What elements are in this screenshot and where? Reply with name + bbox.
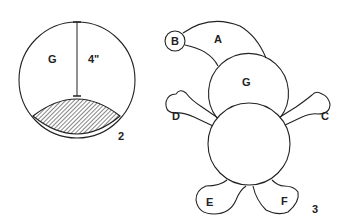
label-dimension: 4" (88, 53, 99, 65)
label-f: F (281, 195, 288, 207)
pattern-diagram: G 4" 2 A B G D C E F 3 (0, 0, 354, 224)
piece-a-top-edge (183, 21, 266, 58)
label-c: C (321, 110, 329, 122)
label-g-fig3: G (242, 76, 251, 88)
piece-a-bottom-edge (185, 45, 218, 66)
label-d: D (172, 110, 180, 122)
piece-body-circle (208, 103, 290, 185)
label-e: E (206, 196, 213, 208)
figure-3: A B G D C E F 3 (165, 21, 330, 215)
label-g-fig2: G (48, 53, 57, 65)
piece-f-leg (253, 180, 298, 214)
figure-number-3: 3 (312, 203, 318, 215)
piece-e-leg (196, 180, 246, 214)
label-a: A (214, 33, 222, 45)
figure-2: G 4" 2 (19, 22, 135, 142)
figure-number-2: 2 (118, 130, 124, 142)
label-b: B (171, 35, 179, 47)
